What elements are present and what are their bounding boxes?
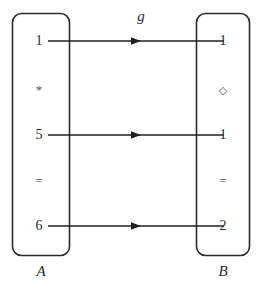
function-mapping-diagram: g 1 * 5 = 6 1 ◇ 1 = 2 A B — [0, 0, 261, 288]
set-a-label: A — [21, 264, 61, 279]
set-b-element-3: = — [212, 174, 234, 187]
mapping-arrowhead-3 — [131, 222, 141, 230]
set-a-element-0: 1 — [28, 34, 50, 48]
set-b-element-2: 1 — [212, 128, 234, 142]
set-a-element-2: 5 — [28, 128, 50, 142]
set-a-element-4: 6 — [28, 219, 50, 233]
mapping-arrowhead-1 — [131, 37, 141, 45]
set-b-element-4: 2 — [212, 219, 234, 233]
mapping-arrowhead-2 — [131, 131, 141, 139]
set-b-label: B — [203, 264, 243, 279]
set-b-element-0: 1 — [212, 34, 234, 48]
set-a-element-1: * — [28, 83, 50, 96]
set-a-element-3: = — [28, 174, 50, 187]
set-b-element-1: ◇ — [212, 85, 234, 96]
map-label-g: g — [121, 9, 161, 24]
